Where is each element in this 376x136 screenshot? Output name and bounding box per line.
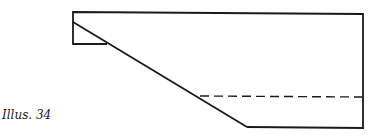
illustration-caption: Illus. 34 [2, 108, 51, 122]
main-outline [73, 12, 363, 128]
dashed-level-line [200, 96, 363, 97]
diagonal-line [73, 22, 247, 127]
illustration-diagram [0, 0, 376, 136]
